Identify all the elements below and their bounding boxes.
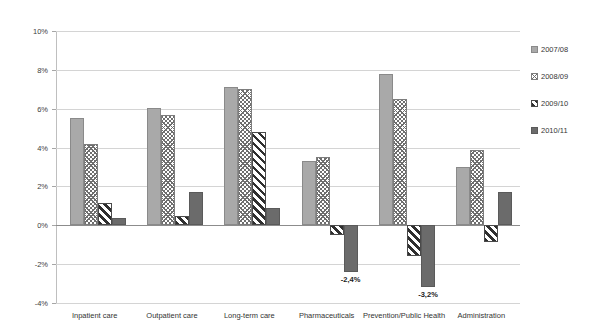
bar-3-2 [238, 89, 252, 225]
legend-label: 2007/08 [541, 45, 568, 54]
category-label: Pharmaceuticals [299, 311, 354, 320]
bar-5-2 [393, 99, 407, 225]
category-label: Prevention/Public Health [363, 311, 445, 320]
legend-swatch-2008-09-icon [531, 73, 538, 80]
bar-6-1 [456, 167, 470, 225]
legend-item-2010-11[interactable]: 2010/11 [531, 125, 609, 135]
bar-6-3 [484, 225, 498, 242]
bar-3-4 [266, 208, 280, 225]
y-axis-tick-label: -2% [12, 260, 48, 269]
bar-6-4 [498, 192, 512, 225]
bar-4-3 [330, 225, 344, 235]
bar-1-3 [98, 203, 112, 225]
y-axis-tick-label: 0% [12, 221, 48, 230]
y-axis-tick-label: 4% [12, 143, 48, 152]
category-label: Outpatient care [146, 311, 197, 320]
bar-4-1 [302, 161, 316, 225]
y-axis-tick-mark [52, 303, 56, 304]
bar-1-4 [112, 218, 126, 225]
category-label: Long-term care [224, 311, 275, 320]
legend-item-2009-10[interactable]: 2009/10 [531, 98, 609, 108]
bar-4-4 [344, 225, 358, 272]
category-label: Inpatient care [72, 311, 117, 320]
bar-1-2 [84, 144, 98, 226]
plot-area [56, 31, 520, 303]
bar-2-2 [161, 115, 175, 226]
y-axis-tick-label: 10% [12, 27, 48, 36]
legend-label: 2008/09 [541, 72, 568, 81]
data-label: -3,2% [418, 290, 438, 299]
data-label: -2,4% [341, 275, 361, 284]
bar-3-1 [224, 87, 238, 225]
bar-6-2 [470, 150, 484, 225]
bar-2-1 [147, 108, 161, 226]
legend-swatch-2009-10-icon [531, 100, 538, 107]
gridline [56, 303, 520, 304]
y-axis-tick-label: 2% [12, 182, 48, 191]
legend-swatch-2007-08-icon [531, 46, 538, 53]
bar-2-4 [189, 192, 203, 225]
y-axis-tick-label: -4% [12, 299, 48, 308]
bar-5-4 [421, 225, 435, 287]
chart-legend: 2007/082008/092009/102010/11 [531, 44, 609, 152]
bar-2-3 [175, 216, 189, 226]
y-axis-tick-label: 6% [12, 104, 48, 113]
bar-1-1 [70, 118, 84, 225]
bar-chart: 10%8%6%4%2%0%-2%-4% Inpatient careOutpat… [0, 0, 611, 334]
bar-5-3 [407, 225, 421, 256]
legend-label: 2010/11 [541, 126, 568, 135]
category-label: Administration [458, 311, 506, 320]
legend-label: 2009/10 [541, 99, 568, 108]
bar-4-2 [316, 157, 330, 225]
bar-3-3 [252, 132, 266, 225]
legend-swatch-2010-11-icon [531, 127, 538, 134]
legend-item-2007-08[interactable]: 2007/08 [531, 44, 609, 54]
y-axis-tick-label: 8% [12, 65, 48, 74]
bar-5-1 [379, 74, 393, 226]
legend-item-2008-09[interactable]: 2008/09 [531, 71, 609, 81]
